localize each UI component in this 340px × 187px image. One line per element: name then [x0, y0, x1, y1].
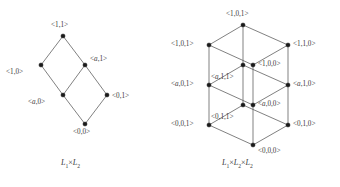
lattice-node — [39, 63, 43, 67]
node-label: <1,0> — [6, 69, 23, 76]
node-label: <0,0,1> — [171, 121, 193, 128]
node-label: <0,0,0> — [258, 148, 280, 155]
diagram-caption: L1×L2 — [61, 158, 80, 169]
node-label: <1,0,0> — [258, 61, 280, 68]
node-label: <0,1,0> — [293, 121, 315, 128]
node-label: <a,0> — [28, 99, 45, 106]
lattice-node — [83, 63, 87, 67]
lattice-node — [83, 122, 87, 126]
lattice-edge — [63, 65, 85, 95]
lattice-node — [286, 43, 290, 47]
node-label: <1,0,1> — [171, 41, 193, 48]
lattice-node — [286, 83, 290, 87]
lattice-node — [286, 123, 290, 127]
node-label: <0,0> — [73, 129, 90, 136]
lattice-node — [61, 93, 65, 97]
lattice-node — [241, 103, 245, 107]
lattice-edge — [85, 95, 107, 124]
lattice-node — [61, 34, 65, 38]
lattice-edge — [41, 65, 63, 95]
lattice-node — [251, 143, 255, 147]
lattice-node — [241, 63, 245, 67]
lattice-edge — [85, 65, 107, 95]
node-label: <1,1> — [51, 22, 68, 29]
lattice-node — [207, 83, 211, 87]
lattice-node — [105, 93, 109, 97]
lattice-edge — [209, 85, 253, 105]
lattice-node — [207, 123, 211, 127]
figure-root: <1,1><1,0><a,1><a,0><0,1><0,0><1,0,1><1,… — [0, 0, 340, 187]
lattice-edge — [63, 36, 85, 65]
node-label: <a,1> — [90, 56, 107, 63]
lattice-edge — [209, 45, 253, 65]
node-label: <a,1,0> — [293, 81, 316, 88]
lattice-edge — [41, 36, 63, 65]
node-label: <0,1,1> — [211, 114, 233, 121]
diagram-caption: L1×L2×L2 — [222, 158, 253, 169]
node-label: <a,0,1> — [171, 81, 194, 88]
node-label: <1,0,1> — [226, 11, 248, 18]
lattice-edge — [63, 95, 85, 124]
lattice-node — [207, 43, 211, 47]
lattice-edge — [253, 125, 288, 145]
edges-layer — [41, 25, 288, 145]
node-label: <a,0,0> — [258, 101, 281, 108]
lattice-node — [251, 103, 255, 107]
lattice-edge — [209, 25, 243, 45]
lattice-node — [251, 63, 255, 67]
lattice-edge — [209, 125, 253, 145]
node-label: <a,1,1> — [211, 74, 234, 81]
lattice-edge — [243, 25, 288, 45]
lattice-node — [241, 23, 245, 27]
node-label: <0,1> — [112, 93, 129, 100]
node-label: <1,1,0> — [293, 41, 315, 48]
